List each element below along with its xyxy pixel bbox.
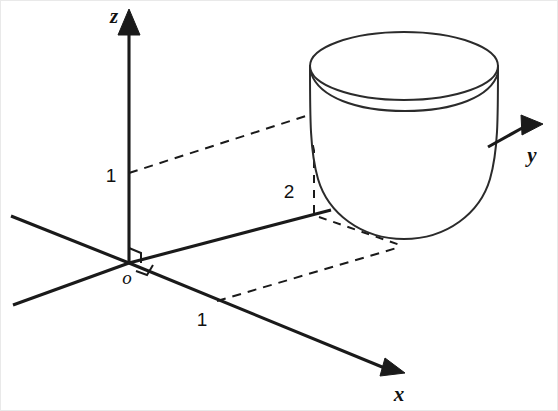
negative-y-axis [13, 263, 129, 305]
positive-y-axis-front [129, 210, 331, 263]
figure-container: z y x o 1 2 1 [0, 0, 558, 411]
x-axis-arrowhead [380, 358, 405, 376]
guide-x1-to-base [217, 247, 400, 301]
coordinate-diagram: z y x o 1 2 1 [1, 1, 558, 411]
x-tick-1-label: 1 [197, 309, 208, 330]
z-axis-arrowhead [118, 9, 140, 35]
negative-x-axis [11, 216, 129, 263]
y-tick-2-label: 2 [284, 181, 295, 202]
y-axis-label: y [524, 143, 537, 167]
y-axis-arrowhead [521, 115, 543, 135]
x-axis-label: x [393, 382, 405, 406]
guide-z1-to-rim [129, 114, 312, 173]
z-tick-1-label: 1 [106, 165, 117, 186]
paraboloid-body-fill [310, 32, 498, 239]
positive-x-axis [129, 263, 387, 369]
z-axis-label: z [109, 4, 119, 28]
origin-label: o [122, 267, 132, 288]
